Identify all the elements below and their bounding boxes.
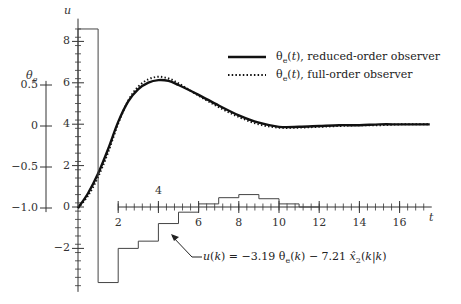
legend [228, 57, 266, 75]
t-tick-label: 12 [312, 217, 326, 228]
t-tick-label: 2 [115, 217, 122, 228]
theta-tick-label: 0.5 [21, 79, 39, 90]
legend-dotted-label: θe(t), full-order observer [276, 69, 413, 85]
u-tick-label: 2 [63, 160, 70, 171]
control-law-annotation: u(k) = −3.19 θe(k) − 7.21 x̂2(k|k) [203, 251, 387, 267]
theta-reduced-order-line [78, 80, 430, 208]
u-axis-title: u [64, 5, 71, 16]
theta-axis [40, 81, 52, 212]
t-tick-label: 6 [195, 217, 202, 228]
theta-tick-label: −0.5 [11, 161, 38, 172]
u-tick-label: −2 [54, 242, 70, 253]
theta-tick-label: 0 [31, 120, 38, 131]
t-tick-label: 4 [155, 185, 162, 196]
t-axis-title: t [429, 212, 433, 223]
theta-tick-label: −1.0 [11, 202, 38, 213]
t-tick-label: 10 [272, 217, 286, 228]
t-axis [118, 201, 432, 213]
u-tick-label: 4 [63, 118, 70, 129]
t-tick-label: 16 [393, 217, 407, 228]
u-tick-label: 6 [63, 77, 70, 88]
t-tick-label: 8 [235, 217, 242, 228]
u-tick-label: 0 [63, 201, 70, 212]
annotation-arrow [171, 234, 202, 257]
legend-solid-label: θe(t), reduced-order observer [276, 51, 440, 67]
u-tick-label: 8 [63, 35, 70, 46]
t-tick-label: 14 [352, 217, 366, 228]
